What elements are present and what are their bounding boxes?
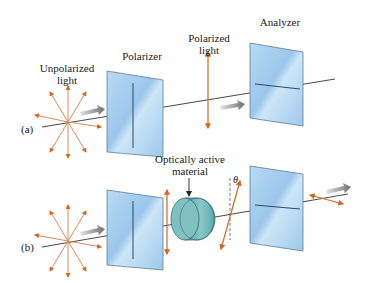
label-material-line2: material: [148, 165, 232, 177]
optical-activity-diagram: Unpolarized light Polarizer Polarized li…: [0, 0, 371, 283]
polarizer-plate-a: [107, 71, 163, 157]
optically-active-cylinder: [171, 198, 215, 240]
analyzer-plate-a: [250, 43, 303, 126]
label-polarizer: Polarizer: [112, 50, 172, 62]
label-theta: θ: [233, 174, 238, 185]
label-unpolarized-light: Unpolarized light: [32, 62, 102, 86]
unpolarized-light-starburst-a: [35, 86, 101, 158]
label-polarized-line1: Polarized: [180, 32, 238, 44]
unpolarized-light-starburst-b: [35, 205, 101, 277]
panel-b: [35, 166, 351, 277]
label-unpolarized-line2: light: [32, 74, 102, 86]
panel-b-tag: (b): [21, 241, 34, 253]
label-unpolarized-line1: Unpolarized: [32, 62, 102, 74]
label-optically-active-material: Optically active material: [148, 153, 232, 177]
propagation-arrow-b2: [326, 183, 351, 194]
label-polarized-line2: light: [180, 44, 238, 56]
material-pointer-head: [186, 191, 192, 197]
propagation-arrow-b1: [80, 225, 105, 236]
propagation-arrow-a1: [80, 105, 105, 116]
label-material-line1: Optically active: [148, 153, 232, 165]
polarizer-plate-b: [107, 190, 163, 270]
analyzer-plate-b: [250, 166, 303, 251]
propagation-arrow-a2: [220, 100, 245, 110]
label-analyzer: Analyzer: [250, 16, 310, 28]
panel-a: [35, 43, 335, 158]
panel-a-tag: (a): [21, 123, 33, 135]
rotated-polarization-arrow: [221, 181, 240, 249]
label-polarized-light: Polarized light: [180, 32, 238, 56]
